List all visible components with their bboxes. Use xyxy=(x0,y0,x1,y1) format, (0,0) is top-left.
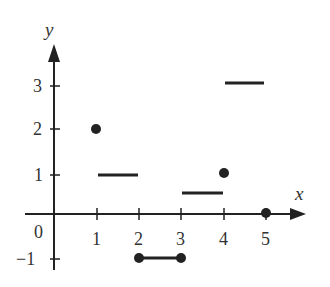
y-tick-3: 3 xyxy=(33,76,42,96)
y-tick-1: 1 xyxy=(34,165,43,185)
point-3-neg1 xyxy=(176,253,186,263)
point-5-0 xyxy=(261,208,271,218)
point-2-neg1 xyxy=(134,253,144,263)
x-tick-4: 4 xyxy=(219,229,228,249)
x-tick-2: 2 xyxy=(134,229,143,249)
y-axis-label: y xyxy=(43,19,54,40)
origin-label: 0 xyxy=(34,222,43,242)
y-tick-neg1: −1 xyxy=(16,249,35,269)
x-tick-3: 3 xyxy=(176,229,185,249)
x-tick-5: 5 xyxy=(261,229,270,249)
piecewise-graph: y x 0 1 2 3 4 5 3 2 1 −1 xyxy=(0,0,330,287)
point-1-2 xyxy=(91,124,101,134)
x-axis-label: x xyxy=(294,183,304,204)
point-4-1 xyxy=(219,168,229,178)
x-axis-arrow-icon xyxy=(290,208,306,220)
y-tick-2: 2 xyxy=(33,119,42,139)
y-axis-arrow-icon xyxy=(48,44,60,62)
x-tick-1: 1 xyxy=(92,229,101,249)
